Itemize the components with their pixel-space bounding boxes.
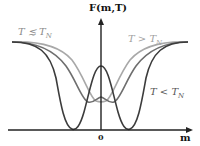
legend-t-less-tn-sub: N: [178, 92, 184, 100]
origin-label: 0: [98, 133, 104, 141]
legend-t-near-tn-text: T ≲ T: [18, 26, 46, 37]
legend-t-less-tn-text: T < T: [150, 86, 178, 97]
legend-t-near-tn: T ≲ TN: [18, 27, 52, 40]
legend-t-greater-tn-sub: N: [156, 39, 162, 47]
legend-t-greater-tn: T > TN: [128, 34, 162, 47]
y-axis-arrow-icon: [98, 18, 104, 25]
legend-t-near-tn-sub: N: [46, 32, 52, 40]
legend-t-less-tn: T < TN: [150, 87, 184, 100]
legend-t-greater-tn-text: T > T: [128, 33, 156, 44]
free-energy-diagram: [0, 0, 200, 146]
x-axis-label: m: [180, 133, 191, 143]
y-axis-label: F(m,T): [89, 3, 127, 13]
